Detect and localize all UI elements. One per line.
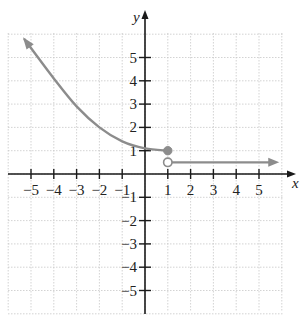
y-tick-label: −5 [121,283,137,299]
y-tick-label: −4 [121,259,137,275]
x-tick-label: −5 [23,182,39,198]
y-tick-label: −1 [121,189,137,205]
x-tick-label: 5 [255,182,263,198]
y-axis-label: y [131,9,140,25]
y-tick-label: 2 [130,119,138,135]
y-tick-label: 4 [130,73,138,89]
function-series [23,37,279,167]
curve-left-piece [24,39,168,151]
x-tick-label: −4 [46,182,62,198]
y-tick-label: −2 [121,213,137,229]
x-tick-label: 2 [187,182,195,198]
x-tick-label: −3 [69,182,85,198]
y-axis-arrow-icon [142,10,149,19]
x-tick-label: −2 [91,182,107,198]
x-tick-label: 3 [210,182,218,198]
y-tick-label: −3 [121,236,137,252]
x-tick-label: 1 [164,182,172,198]
closed-dot [164,147,172,155]
piecewise-function-graph: −5−4−3−2−112345−5−4−3−2−112345 x y [0,0,305,328]
open-dot [164,158,172,166]
y-tick-label: 5 [130,50,138,66]
x-tick-label: 4 [232,182,240,198]
y-tick-label: 3 [130,96,138,112]
right-arrow-icon [268,158,279,167]
x-axis-label: x [291,175,299,191]
